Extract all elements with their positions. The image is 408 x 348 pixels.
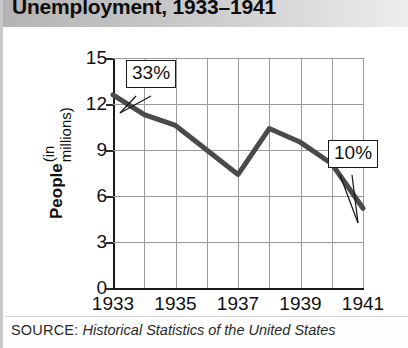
chart-area: People (in millions) 03691215 1933193519…: [3, 27, 408, 315]
page-title: Unemployment, 1933–1941: [12, 0, 276, 19]
callout-leader-lines: [3, 27, 408, 315]
end-callout: 10%: [328, 140, 378, 168]
start-callout: 33%: [126, 60, 176, 88]
title-bar: Unemployment, 1933–1941: [3, 0, 408, 27]
source-divider: [6, 316, 408, 317]
source-text: Historical Statistics of the United Stat…: [83, 322, 336, 338]
source-line: SOURCE: Historical Statistics of the Uni…: [11, 322, 336, 338]
source-label: SOURCE:: [11, 322, 78, 338]
